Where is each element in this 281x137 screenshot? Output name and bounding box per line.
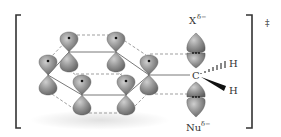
transition-state-symbol: ‡ <box>265 18 270 28</box>
hydrogen-label-1: H <box>229 58 238 69</box>
hashed-wedge-bond <box>201 61 225 74</box>
left-bracket <box>16 15 21 128</box>
svg-text:Nu: Nu <box>186 122 202 133</box>
svg-text:X: X <box>189 15 197 26</box>
nucleophile-label: Nu δ− <box>186 120 210 133</box>
right-bracket <box>246 15 252 128</box>
svg-text:δ−: δ− <box>197 13 206 21</box>
hydrogen-label-2: H <box>229 85 238 96</box>
svg-text:δ−: δ− <box>201 120 210 128</box>
ring-p-orbitals <box>39 32 158 115</box>
leaving-group-label: X δ− <box>189 13 206 26</box>
transition-state-diagram: ‡ <box>0 0 281 137</box>
solid-wedge-bond <box>201 77 226 91</box>
central-carbon-label: C <box>192 70 200 81</box>
p-orbital-atom-3 <box>39 55 57 95</box>
